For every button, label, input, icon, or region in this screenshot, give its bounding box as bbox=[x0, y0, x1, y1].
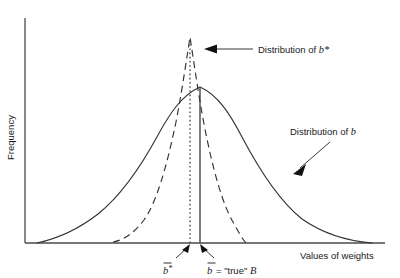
curve-distribution-b bbox=[37, 87, 372, 243]
axis-mark-b-star-symbol: b* bbox=[163, 264, 172, 276]
annotation-label-b: Distribution of b bbox=[290, 126, 356, 137]
axis-mark-label-b-bar-true: b = "true" B bbox=[207, 263, 257, 276]
leader-line-b bbox=[300, 142, 330, 168]
curve-distribution-b-star bbox=[113, 37, 246, 243]
arrowhead-b-star-icon bbox=[204, 45, 217, 54]
annotation-label-b-star: Distribution of b* bbox=[258, 44, 330, 55]
annotation-distribution-b: Distribution of b bbox=[290, 126, 356, 176]
axis-mark-b-true-symbol: b bbox=[207, 265, 212, 276]
x-axis-title: Values of weights bbox=[300, 250, 374, 261]
axis-mark-arrows bbox=[176, 244, 214, 258]
figure-container: Distribution of b* Distribution of b b* … bbox=[0, 0, 400, 278]
axis-mark-b-true-equals: = "true" B bbox=[216, 265, 257, 276]
arrowhead-b-icon bbox=[293, 164, 306, 176]
y-axis-title: Frequency bbox=[5, 115, 16, 160]
annotation-distribution-b-star: Distribution of b* bbox=[204, 44, 330, 55]
axis-mark-label-b-bar-star: b* bbox=[163, 263, 172, 276]
distribution-comparison-figure: Distribution of b* Distribution of b b* … bbox=[0, 0, 400, 278]
